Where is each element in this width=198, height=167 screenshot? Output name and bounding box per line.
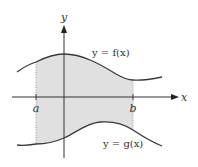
curve-f-label: y = f(x) (91, 47, 130, 58)
curve-g-label: y = g(x) (102, 138, 143, 149)
x-axis-label: x (181, 91, 188, 104)
y-axis-label: y (60, 11, 68, 24)
x-axis-arrow-icon (171, 94, 179, 100)
shaded-region (36, 54, 133, 144)
area-between-curves-diagram: y x a b y = f(x) y = g(x) (0, 0, 198, 167)
bound-a-label: a (33, 102, 40, 115)
bound-b-label: b (129, 102, 136, 115)
y-axis-arrow-icon (61, 25, 67, 33)
